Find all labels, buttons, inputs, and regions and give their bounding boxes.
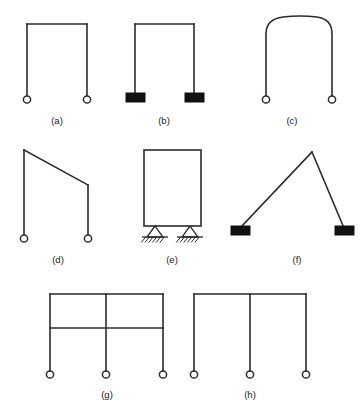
panel-g-pin-support-right (159, 371, 166, 378)
panel-b-caption: (b) (158, 115, 170, 126)
panel-e: (e) (141, 150, 203, 265)
panel-h: (h) (190, 294, 309, 400)
panel-b: (b) (126, 24, 204, 126)
panel-d: (d) (20, 150, 91, 265)
panel-c-arched-frame (266, 16, 332, 96)
panel-g-pin-support-left (46, 371, 53, 378)
pin-triangle-shape (147, 226, 163, 237)
panel-e-pin-support-left (141, 226, 168, 243)
panel-e-pin-support-right (176, 226, 203, 243)
panel-f-fixed-support-right (335, 226, 354, 235)
panel-d-caption: (d) (52, 254, 64, 265)
panel-g-caption: (g) (101, 389, 113, 400)
frames-diagram-canvas: (a) (b) (c) (d) (0, 0, 361, 415)
panel-f: (f) (231, 152, 354, 265)
panel-a-pin-support-left (23, 96, 30, 103)
pin-triangle-shape (182, 226, 198, 237)
panel-b-fixed-support-left (126, 93, 145, 102)
panel-c-caption: (c) (286, 115, 297, 126)
panel-d-pin-support-left (20, 235, 27, 242)
panel-c-pin-support-left (262, 96, 269, 103)
panel-f-rafter-right (312, 152, 344, 228)
structural-frames-figure: (a) (b) (c) (d) (0, 0, 361, 415)
panel-a: (a) (23, 24, 90, 126)
panel-f-fixed-support-left (231, 226, 250, 235)
panel-h-pin-support-center (246, 371, 253, 378)
panel-d-sloping-beam (24, 150, 88, 185)
panel-h-pin-support-right (302, 371, 309, 378)
panel-f-caption: (f) (293, 254, 302, 265)
panel-f-rafter-left (240, 152, 312, 228)
panel-e-caption: (e) (166, 254, 178, 265)
panel-e-closed-frame (144, 150, 201, 226)
panel-h-pin-support-left (190, 371, 197, 378)
panel-a-pin-support-right (83, 96, 90, 103)
panel-d-pin-support-right (84, 235, 91, 242)
panel-h-caption: (h) (244, 389, 256, 400)
panel-c: (c) (262, 16, 335, 126)
panel-b-fixed-support-right (185, 93, 204, 102)
panel-g-pin-support-center (102, 371, 109, 378)
panel-a-caption: (a) (51, 115, 63, 126)
panel-c-pin-support-right (328, 96, 335, 103)
panel-g: (g) (46, 294, 166, 400)
